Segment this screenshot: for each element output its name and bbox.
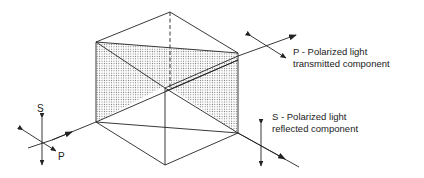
beamsplitter-diagram: S P P - Polarized light transmitted comp… (0, 0, 424, 178)
transmitted-beam (238, 35, 296, 56)
hypotenuse-plane (96, 42, 238, 165)
input-p-label: P (58, 151, 65, 163)
reflected-beam-arrow (238, 133, 285, 159)
reflected-label-line1: S - Polarized light (272, 111, 358, 123)
transmitted-polarization-arrow (251, 36, 286, 58)
input-s-label: S (37, 103, 44, 115)
transmitted-label-line2: transmitted component (293, 58, 390, 70)
input-polarization-cross (23, 118, 56, 165)
incident-beam-arrow (52, 132, 72, 140)
transmitted-label: P - Polarized light transmitted componen… (293, 46, 390, 69)
reflected-label: S - Polarized light reflected component (272, 111, 358, 134)
transmitted-label-line1: P - Polarized light (293, 46, 390, 58)
reflected-label-line2: reflected component (272, 123, 358, 135)
